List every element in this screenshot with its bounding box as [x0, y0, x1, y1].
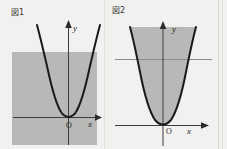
margin-rule-2: [222, 0, 223, 149]
figure-1-y-axis-arrow: [65, 20, 72, 28]
figure-2: 図2 y x O: [106, 0, 221, 149]
figure-1-y-axis-label: y: [73, 24, 77, 33]
figure-2-x-axis-label: x: [187, 127, 191, 136]
figure-page: 図1 y x O 図2: [0, 0, 227, 149]
figure-2-y-axis-label: y: [172, 25, 176, 34]
figure-2-origin-label: O: [166, 128, 172, 136]
figure-1-x-axis-arrow: [95, 114, 102, 121]
figure-2-svg: [106, 0, 221, 149]
figure-2-plot: [106, 0, 221, 149]
figure-2-y-axis-arrow: [160, 21, 167, 29]
figure-1-origin-label: O: [66, 122, 72, 130]
figure-1: 図1 y x O: [0, 0, 106, 149]
figure-1-x-axis-label: x: [88, 120, 92, 129]
figure-2-x-axis-arrow: [201, 122, 209, 129]
